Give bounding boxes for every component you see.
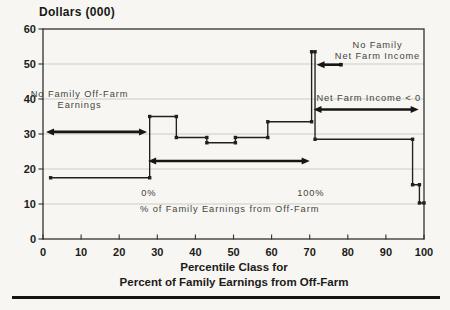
zero-percent-label: 0% [141,188,156,198]
step-corner-marker [313,50,316,53]
income-percentile-step-chart: 01020304050607080901000102030405060Perce… [0,0,450,310]
step-corner-marker [310,50,313,53]
y-tick-label: 10 [24,198,36,210]
step-corner-marker [266,120,269,123]
y-tick-label: 20 [24,163,36,175]
x-tick-label: 30 [151,246,163,258]
x-axis-title-line: Percentile Class for [180,261,288,273]
y-tick-label: 30 [24,128,36,140]
y-tick-label: 0 [30,233,36,245]
step-corner-marker [234,141,237,144]
step-corner-marker [205,141,208,144]
step-corner-marker [422,201,425,204]
y-tick-label: 60 [24,23,36,35]
step-corner-marker [411,183,414,186]
step-corner-marker [310,120,313,123]
x-tick-label: 100 [415,246,433,258]
x-tick-label: 70 [304,246,316,258]
y-tick-label: 50 [24,58,36,70]
x-tick-label: 50 [227,246,239,258]
bottom-rule [12,296,440,299]
percent-off-farm-note: % of Family Earnings from Off-Farm [140,204,319,214]
step-corner-marker [266,136,269,139]
no-family-off-farm-earnings-label: Earnings [58,100,102,110]
x-tick-label: 60 [265,246,277,258]
x-tick-label: 20 [113,246,125,258]
step-corner-marker [234,136,237,139]
net-farm-income-lt-0-label: Net Farm Income < 0 [316,93,421,103]
x-axis-title-line: Percent of Family Earnings from Off-Farm [120,276,349,288]
step-corner-marker [411,138,414,141]
hundred-percent-label: 100% [297,188,324,198]
step-corner-marker [148,115,151,118]
step-corner-marker [418,183,421,186]
no-family-net-farm-income-label: Net Farm Income [335,51,420,61]
step-corner-marker [205,136,208,139]
no-family-net-farm-income-label: No Family [353,40,403,50]
no-net-farm-income-pointer-endcap [339,63,343,67]
net-farm-income-negative-range-arrowhead-right [411,106,419,113]
figure-page: Dollars (000) 01020304050607080901000102… [0,0,450,310]
household-income-by-percentile-step [51,52,424,203]
step-corner-marker [175,136,178,139]
no-net-farm-income-pointer-arrowhead-left [317,61,325,68]
step-corner-marker [175,115,178,118]
off-farm-0-to-100-range-arrowhead-right [302,157,310,164]
no-family-off-farm-earnings-label: No Family Off-Farm [31,89,129,99]
x-tick-label: 90 [380,246,392,258]
step-corner-marker [49,176,52,179]
step-corner-marker [313,138,316,141]
step-corner-marker [418,201,421,204]
step-corner-marker [148,176,151,179]
x-tick-label: 40 [189,246,201,258]
x-tick-label: 80 [342,246,354,258]
x-tick-label: 10 [75,246,87,258]
x-tick-label: 0 [40,246,46,258]
